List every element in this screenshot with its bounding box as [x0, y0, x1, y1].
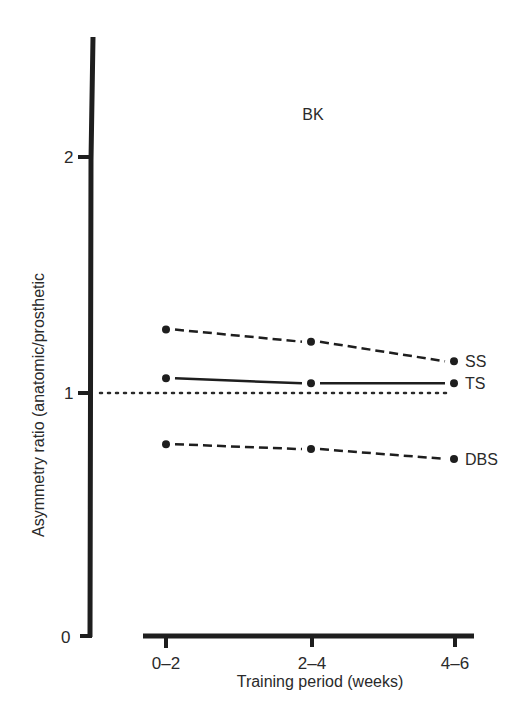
series-segment: [320, 449, 445, 459]
panel-title: BK: [302, 106, 324, 123]
data-point: [162, 440, 170, 448]
data-point: [307, 338, 315, 346]
series-layer: SSTSDBS: [162, 326, 498, 468]
series-segment: [320, 342, 445, 362]
data-point: [450, 379, 458, 387]
series-segment: [175, 378, 302, 383]
y-tick-label-2: 2: [64, 148, 73, 167]
x-tick-label-1: 2–4: [298, 654, 326, 673]
series-label-ss: SS: [465, 353, 486, 370]
y-tick-label-0: 0: [61, 628, 70, 647]
series-dbs: DBS: [162, 440, 498, 468]
y-axis: [90, 37, 93, 637]
y-axis-title: Asymmetry ratio (anatomic/prosthetic: [30, 273, 47, 537]
x-tick-label-2: 4–6: [441, 654, 469, 673]
data-point: [450, 357, 458, 365]
data-point: [162, 326, 170, 334]
series-label-ts: TS: [465, 375, 485, 392]
x-axis-title: Training period (weeks): [237, 673, 404, 690]
series-segment: [175, 330, 302, 342]
x-tick-label-0: 0–2: [152, 654, 180, 673]
series-ts: TS: [162, 374, 485, 392]
data-point: [162, 374, 170, 382]
chart: 2 1 0 Asymmetry ratio (anatomic/prosthet…: [0, 0, 523, 723]
data-point: [307, 445, 315, 453]
series-segment: [175, 444, 302, 449]
series-label-dbs: DBS: [465, 451, 498, 468]
y-tick-label-1: 1: [64, 384, 73, 403]
series-ss: SS: [162, 326, 486, 371]
data-point: [307, 379, 315, 387]
data-point: [450, 455, 458, 463]
